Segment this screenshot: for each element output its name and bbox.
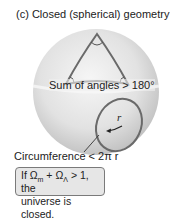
radius-label: r bbox=[117, 111, 121, 123]
condition-line-2: universe is closed. bbox=[21, 195, 104, 218]
closed-condition-box: If Ωm + ΩΛ > 1, the universe is closed. bbox=[15, 167, 105, 196]
condition-line-1: If Ωm + ΩΛ > 1, the bbox=[21, 169, 104, 195]
sum-of-angles-label: Sum of angles > 180° bbox=[49, 79, 155, 91]
circumference-label: Circumference < 2π r bbox=[14, 150, 118, 162]
